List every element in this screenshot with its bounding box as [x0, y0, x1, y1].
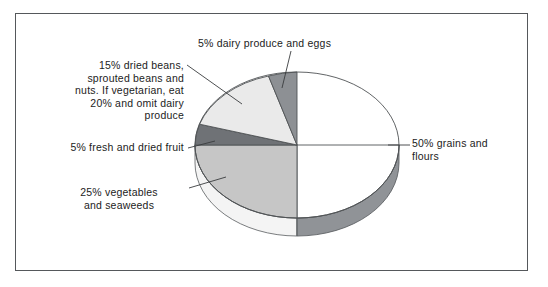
- pie-chart-figure: 5% dairy produce and eggs 15% dried bean…: [0, 0, 548, 287]
- pie-label-dairy: 5% dairy produce and eggs: [198, 37, 388, 50]
- leader-line-beans: [187, 65, 242, 104]
- screenshot-root: 5% dairy produce and eggs 15% dried bean…: [0, 0, 548, 287]
- pie-label-beans: 15% dried beans, sprouted beans and nuts…: [24, 59, 184, 122]
- pie-label-vegetables: 25% vegetables and seaweeds: [54, 186, 184, 211]
- pie-label-fruit: 5% fresh and dried fruit: [24, 141, 184, 154]
- pie-label-grains: 50% grains and flours: [412, 137, 522, 162]
- pie-top-face: [195, 72, 399, 218]
- pie-slice-grains: [297, 145, 399, 218]
